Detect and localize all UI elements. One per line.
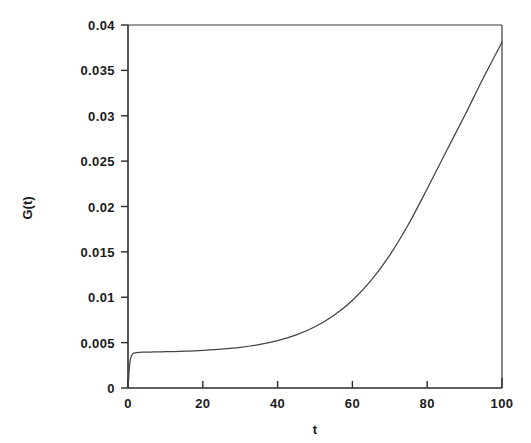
y-tick-label-4: 0.02 xyxy=(88,200,115,215)
chart-svg: 00.0050.010.0150.020.0250.030.0350.04 G(… xyxy=(0,0,531,443)
x-tick-label-0: 0 xyxy=(124,396,132,411)
y-tick-label-6: 0.03 xyxy=(88,109,115,124)
chart-figure: 00.0050.010.0150.020.0250.030.0350.04 G(… xyxy=(0,0,531,443)
y-tick-label-5: 0.025 xyxy=(80,154,115,169)
y-tick-label-3: 0.015 xyxy=(80,245,115,260)
x-tick-label-2: 40 xyxy=(270,396,285,411)
x-tick-label-5: 100 xyxy=(491,396,514,411)
x-tick-label-4: 80 xyxy=(420,396,435,411)
y-tick-label-8: 0.04 xyxy=(88,18,115,33)
x-tick-label-1: 20 xyxy=(195,396,210,411)
y-axis-title: G(t) xyxy=(20,196,35,219)
x-axis-title: t xyxy=(313,422,318,437)
y-tick-label-2: 0.01 xyxy=(88,290,115,305)
y-tick-label-7: 0.035 xyxy=(80,63,115,78)
y-tick-label-0: 0 xyxy=(107,381,115,396)
x-tick-label-3: 60 xyxy=(345,396,360,411)
y-tick-label-1: 0.005 xyxy=(80,336,115,351)
